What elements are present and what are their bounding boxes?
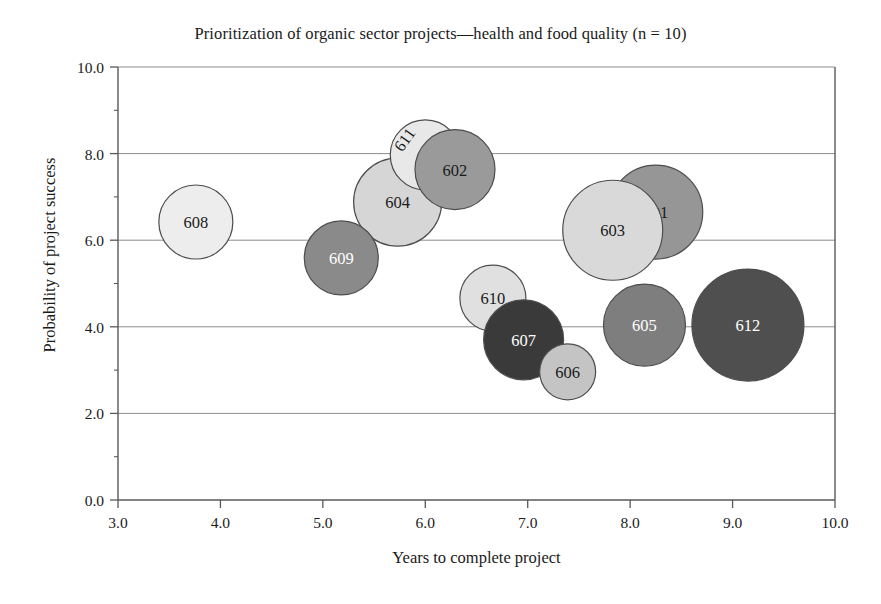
x-tick-label: 5.0 — [313, 514, 333, 531]
x-tick-label: 6.0 — [416, 514, 436, 531]
bubble-612[interactable]: 612 — [692, 269, 804, 381]
bubble-608[interactable]: 608 — [159, 185, 233, 259]
y-tick-label: 10.0 — [77, 59, 104, 76]
bubble-label-605: 605 — [632, 316, 657, 335]
bubble-label-602: 602 — [443, 161, 468, 180]
bubble-602[interactable]: 602 — [415, 130, 495, 210]
y-tick-label: 2.0 — [85, 405, 105, 422]
bubble-603[interactable]: 603 — [563, 180, 663, 280]
x-tick-label: 4.0 — [211, 514, 231, 531]
bubble-609[interactable]: 609 — [304, 221, 378, 295]
y-tick-label: 0.0 — [85, 492, 105, 509]
y-tick-label: 4.0 — [85, 319, 105, 336]
bubble-series: 608601610612603605607604606611602609 — [159, 120, 804, 400]
bubble-label-608: 608 — [183, 213, 208, 232]
bubble-label-609: 609 — [329, 249, 354, 268]
x-tick-label: 8.0 — [620, 514, 640, 531]
x-tick-label: 9.0 — [723, 514, 743, 531]
bubble-label-604: 604 — [385, 193, 410, 212]
bubble-606[interactable]: 606 — [540, 344, 596, 400]
y-tick-label: 6.0 — [85, 232, 105, 249]
bubble-label-606: 606 — [555, 363, 580, 382]
bubble-605[interactable]: 605 — [603, 284, 685, 366]
bubble-label-603: 603 — [600, 221, 625, 240]
bubble-label-607: 607 — [511, 331, 536, 350]
x-tick-label: 7.0 — [518, 514, 538, 531]
y-tick-label: 8.0 — [85, 146, 105, 163]
x-tick-label: 3.0 — [108, 514, 128, 531]
plot-area: 0.02.04.06.08.010.03.04.05.06.07.08.09.0… — [0, 0, 881, 604]
x-tick-label: 10.0 — [821, 514, 848, 531]
bubble-label-610: 610 — [481, 289, 506, 308]
bubble-chart-figure: Prioritization of organic sector project… — [0, 0, 881, 604]
bubble-label-612: 612 — [736, 316, 761, 335]
